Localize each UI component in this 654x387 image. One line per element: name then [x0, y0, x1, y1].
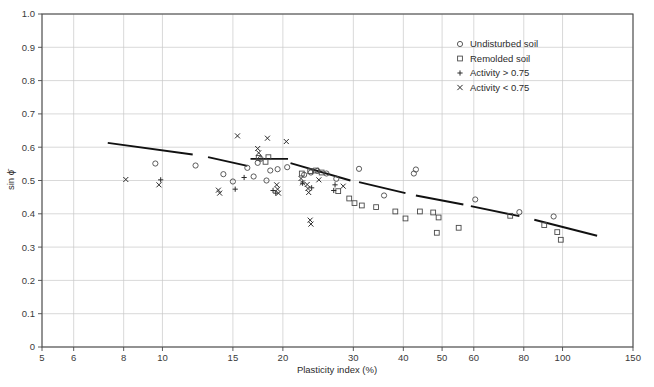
scatter-plot-svg: 5681015203040506080100150 00.10.20.30.40… — [0, 0, 654, 387]
y-tick-label: 0.1 — [22, 308, 35, 319]
chart-figure: 5681015203040506080100150 00.10.20.30.40… — [0, 0, 654, 387]
y-tick-label: 0.3 — [22, 242, 35, 253]
x-tick-label: 10 — [157, 352, 168, 363]
x-tick-label: 8 — [121, 352, 126, 363]
plot-background — [0, 0, 654, 387]
y-axis-title: sin ϕ̄ — [5, 168, 16, 190]
x-tick-label: 6 — [71, 352, 76, 363]
legend-item-circle: Undisturbed soil — [457, 38, 538, 49]
x-tick-label: 15 — [228, 352, 239, 363]
y-tick-label: 0.8 — [22, 75, 35, 86]
y-tick-label: 1.0 — [22, 8, 35, 19]
y-tick-label: 0.9 — [22, 42, 35, 53]
x-tick-label: 20 — [278, 352, 289, 363]
x-tick-label: 80 — [518, 352, 529, 363]
x-axis-title: Plasticity index (%) — [297, 364, 377, 375]
legend-label: Activity > 0.75 — [470, 67, 529, 78]
y-tick-label: 0.2 — [22, 275, 35, 286]
legend-label: Undisturbed soil — [470, 38, 538, 49]
y-tick-label: 0 — [30, 341, 35, 352]
x-tick-label: 150 — [625, 352, 641, 363]
x-tick-label: 30 — [348, 352, 359, 363]
x-tick-label: 50 — [437, 352, 448, 363]
x-tick-label: 40 — [398, 352, 409, 363]
x-tick-label: 60 — [468, 352, 479, 363]
y-tick-label: 0.5 — [22, 175, 35, 186]
legend-label: Activity < 0.75 — [470, 82, 529, 93]
y-tick-label: 0.6 — [22, 142, 35, 153]
y-tick-label: 0.4 — [22, 208, 35, 219]
legend-label: Remolded soil — [470, 53, 530, 64]
y-tick-label: 0.7 — [22, 108, 35, 119]
y-axis-title-group: sin ϕ̄ — [5, 168, 16, 190]
x-tick-label: 100 — [555, 352, 571, 363]
x-tick-label: 5 — [39, 352, 44, 363]
